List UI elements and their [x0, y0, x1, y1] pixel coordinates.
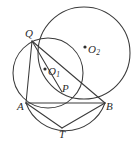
geometry-figure: Q A B P T O1 O2 — [0, 0, 138, 145]
point-label-B: B — [106, 101, 113, 112]
point-label-O1: O1 — [48, 66, 60, 77]
point-label-O2: O2 — [88, 44, 100, 55]
geometry-canvas — [0, 0, 138, 145]
point-label-P: P — [62, 83, 69, 94]
center-dot-O1 — [43, 67, 46, 70]
center-dot-O2 — [83, 45, 86, 48]
point-label-Q: Q — [25, 28, 33, 39]
point-label-A: A — [17, 101, 24, 112]
segment-Q-A — [26, 41, 32, 103]
point-label-T: T — [59, 129, 65, 140]
